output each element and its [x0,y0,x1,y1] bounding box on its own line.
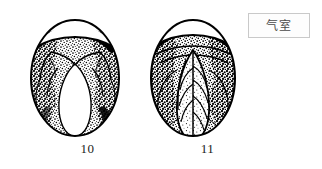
specimen-11-group: 11 [136,10,251,160]
air-chamber-callout-box: 气室 [248,13,310,38]
specimen-10-number: 10 [30,141,145,157]
specimen-10-group: 10 [18,10,133,160]
egg-outline-icon [136,10,251,145]
egg-outline-icon [18,10,133,145]
air-chamber-callout-label: 气室 [266,20,292,32]
specimen-11-number: 11 [150,141,265,157]
figure-canvas: 10 [0,0,322,169]
